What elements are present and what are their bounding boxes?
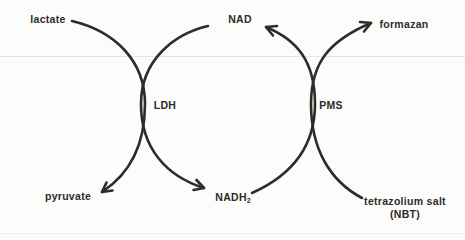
label-pyruvate: pyruvate [45, 190, 91, 203]
label-formazan: formazan [379, 18, 428, 31]
label-lactate: lactate [30, 13, 65, 26]
label-ldh-enzyme: LDH [154, 99, 176, 112]
label-nadh2-base: NADH [215, 191, 247, 203]
label-nad: NAD [228, 13, 252, 26]
label-pms-enzyme: PMS [319, 99, 343, 112]
label-nadh2: NADH2 [215, 191, 250, 206]
label-tetrazolium-line2: (NBT) [364, 208, 446, 221]
label-tetrazolium-salt: tetrazolium salt (NBT) [364, 195, 446, 221]
curve-nadh2-to-nad [252, 27, 315, 193]
label-nadh2-subscript: 2 [247, 197, 251, 204]
reaction-diagram: lactate NAD formazan LDH PMS pyruvate NA… [0, 0, 465, 240]
label-tetrazolium-line1: tetrazolium salt [364, 195, 446, 208]
curve-lactate-to-pyruvate [72, 21, 145, 192]
